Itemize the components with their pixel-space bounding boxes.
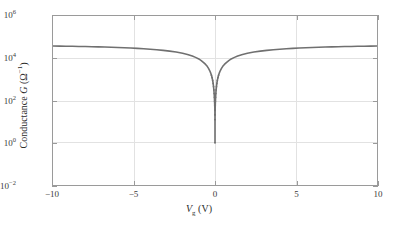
x-axis-title: Vg (V) [0, 203, 398, 214]
y-axis-title: Conductance G (Ω−1) [18, 21, 29, 191]
x-tick-label: 0 [213, 189, 218, 199]
y-tick-label: 106 [4, 10, 16, 20]
x-tick-label: −10 [45, 189, 59, 199]
x-tick-label: 5 [294, 189, 299, 199]
data-series-conductance [53, 16, 377, 185]
y-tick-label: 102 [4, 96, 16, 106]
y-tick-label: 104 [4, 53, 16, 63]
x-tick-label: 10 [374, 189, 383, 199]
plot-area [52, 15, 378, 186]
figure: Conductance G (Ω−1) 10−2100102104106 −10… [0, 0, 398, 228]
x-tick-label: −5 [129, 189, 139, 199]
y-tick-label: 100 [4, 138, 16, 148]
y-tick-label: 10−2 [0, 181, 16, 191]
